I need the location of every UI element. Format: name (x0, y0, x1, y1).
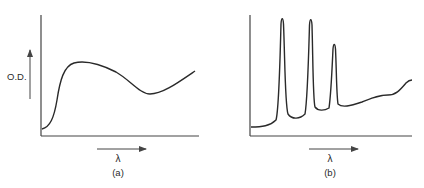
panel-a-xlabel: λ (116, 153, 121, 164)
panel-a-spectrum-curve (42, 62, 195, 129)
panel-a: O.D. λ (a) (7, 15, 199, 178)
panel-b: λ (b) (250, 15, 412, 178)
panel-b-spectrum-curve (251, 19, 412, 127)
panel-b-xlabel: λ (328, 153, 333, 164)
panel-a-caption: (a) (112, 167, 124, 178)
panel-a-ylabel: O.D. (7, 71, 27, 82)
figure-canvas: O.D. λ (a) λ (b) (0, 0, 424, 188)
panel-b-caption: (b) (324, 167, 336, 178)
